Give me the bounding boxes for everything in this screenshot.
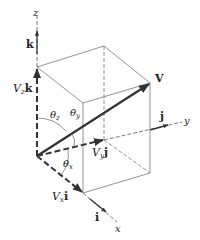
j-label: j [159, 110, 164, 123]
j-unit-vector [150, 125, 168, 130]
i-label: i [95, 211, 99, 224]
v-label: V [154, 72, 164, 85]
y-axis [104, 122, 182, 140]
vx-i-label: Vxi [52, 190, 68, 204]
theta-z-label: θz [50, 109, 60, 122]
y-axis-label: y [183, 115, 190, 126]
k-label: k [26, 38, 34, 51]
vz-k-label: Vzk [13, 82, 33, 96]
theta-y-arc [72, 134, 75, 146]
vx-component [37, 156, 82, 192]
vy-j-label: Vyj [92, 146, 108, 160]
z-axis-label: z [32, 7, 39, 18]
theta-y-label: θy [70, 107, 81, 120]
theta-x-label: θx [63, 158, 73, 171]
x-axis-label: x [115, 223, 121, 234]
vector-components-diagram: z k Vzk V j y θz θy θx Vyj Vxi i x [0, 0, 200, 240]
